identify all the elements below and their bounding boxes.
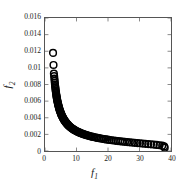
y-tick-label: 0.01: [28, 64, 41, 72]
scatter-data-layer: [45, 18, 171, 151]
x-axis-title: f1: [0, 166, 189, 181]
y-tick-label: 0.008: [24, 81, 41, 89]
axis-tick-marks: [45, 18, 171, 151]
x-tick-label: 10: [72, 155, 80, 163]
y-tick-label: 0.006: [24, 97, 41, 105]
data-point: [50, 50, 57, 57]
figure-container: 00.0020.0040.0060.0080.010.0120.0140.016…: [0, 0, 189, 186]
data-point: [50, 62, 57, 69]
plot-area: [44, 17, 172, 152]
x-tick-label: 0: [42, 155, 46, 163]
y-axis-title-subscript: 2: [8, 81, 17, 85]
y-axis-title: f2: [1, 81, 16, 88]
data-point-markers: [50, 50, 168, 151]
x-tick-label: 30: [136, 155, 144, 163]
y-tick-label: 0.016: [24, 13, 41, 21]
y-tick-label: 0.014: [24, 30, 41, 38]
x-tick-label: 40: [168, 155, 176, 163]
x-axis-title-subscript: 1: [94, 172, 98, 181]
y-tick-label: 0.012: [24, 47, 41, 55]
y-tick-label: 0.004: [24, 114, 41, 122]
y-tick-label: 0.002: [24, 131, 41, 139]
x-tick-label: 20: [104, 155, 112, 163]
y-axis-title-wrapper: f2: [2, 17, 16, 152]
y-tick-label: 0: [37, 148, 41, 156]
